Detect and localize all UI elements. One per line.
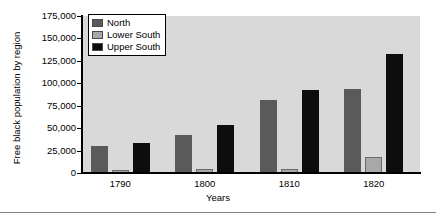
y-tick-label: 0 [14,168,76,178]
bar [365,157,382,173]
bar [91,146,108,173]
bar [260,100,277,173]
y-tick-label: 50,000 [14,123,76,133]
bar [302,90,319,173]
y-axis-line [81,15,83,174]
bar [217,125,234,173]
chart-legend: NorthLower SouthUpper South [88,14,166,56]
y-tick-label: 25,000 [14,146,76,156]
x-tick-label: 1800 [175,178,235,190]
bar [133,143,150,173]
bar-chart-figure: Free black population by region 025,0005… [0,0,436,224]
y-tick-label: 100,000 [14,78,76,88]
bar [386,54,403,173]
legend-item: North [92,17,160,29]
legend-label: Lower South [107,29,160,41]
x-axis-line [81,172,421,174]
legend-item: Upper South [92,41,160,53]
legend-item: Lower South [92,29,160,41]
legend-swatch-icon [92,31,103,39]
x-tick-label: 1820 [344,178,404,190]
y-axis-tick-labels: 025,00050,00075,000100,000125,000150,000… [14,0,76,224]
x-tick-label: 1790 [90,178,150,190]
legend-label: North [107,17,130,29]
y-tick-label: 125,000 [14,56,76,66]
legend-swatch-icon [92,19,103,27]
bar [175,135,192,173]
x-tick-label: 1810 [259,178,319,190]
y-tick-label: 150,000 [14,33,76,43]
x-axis-title: Years [0,192,436,204]
y-tick-label: 75,000 [14,101,76,111]
legend-label: Upper South [107,41,160,53]
bar [344,89,361,173]
bottom-divider [0,212,436,213]
legend-swatch-icon [92,43,103,51]
y-tick-label: 175,000 [14,11,76,21]
